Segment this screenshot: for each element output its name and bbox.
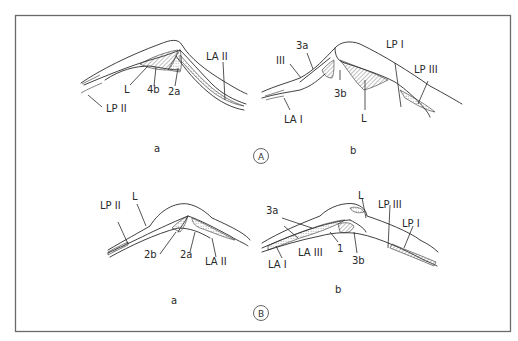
panel-marker-a: A [254,149,269,164]
label-L: L [132,191,138,202]
label-LA-II: LA II [205,256,227,267]
label-LP-II: LP II [106,103,127,114]
subfigure-caption-b: b [335,284,341,295]
label-LP-II: LP II [100,200,121,211]
subfigure-caption-a: a [171,295,177,306]
label-LA-III: LA III [298,247,323,258]
label-1: 1 [337,243,343,254]
label-LP-I: LP I [386,39,404,50]
label-3b: 3b [352,255,365,266]
label-2a: 2a [180,249,193,260]
label-LA-I: LA I [284,114,303,125]
label-3a: 3a [296,40,309,51]
label-LP-III: LP III [414,64,438,75]
label-4b: 4b [147,84,160,95]
figure-frame [16,16,511,332]
label-L: L [358,190,364,201]
label-LA-II: LA II [206,51,228,62]
label-LP-I: LP I [402,218,420,229]
subfigure-caption-b: b [350,145,356,156]
label-L: L [361,113,367,124]
label-III: III [276,55,285,66]
subfigure-caption-a: a [154,143,160,154]
svg-text:A: A [258,152,265,162]
svg-text:B: B [258,309,264,319]
label-2a: 2a [168,86,181,97]
anatomical-figure: L 4b 2a LA II LP II a III 3a 3b LA I L L… [0,0,518,341]
label-LA-I: LA I [268,259,287,270]
label-LP-III: LP III [378,199,402,210]
label-2b: 2b [144,249,157,260]
label-L: L [124,84,130,95]
label-3a: 3a [266,205,279,216]
panel-marker-b: B [254,306,269,321]
label-3b: 3b [334,88,347,99]
